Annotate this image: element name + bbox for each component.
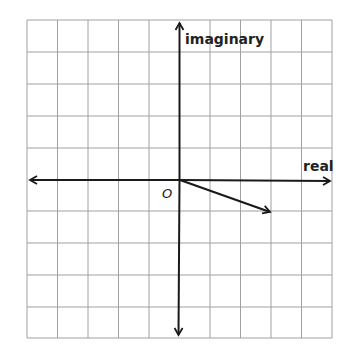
origin-label: O [162,186,172,201]
imaginary-axis [179,23,180,335]
real-axis-label: real [303,158,334,174]
imaginary-axis-label: imaginary [185,31,264,47]
vector-arrow [180,180,270,212]
complex-plane-diagram: imaginary real O [0,0,348,355]
